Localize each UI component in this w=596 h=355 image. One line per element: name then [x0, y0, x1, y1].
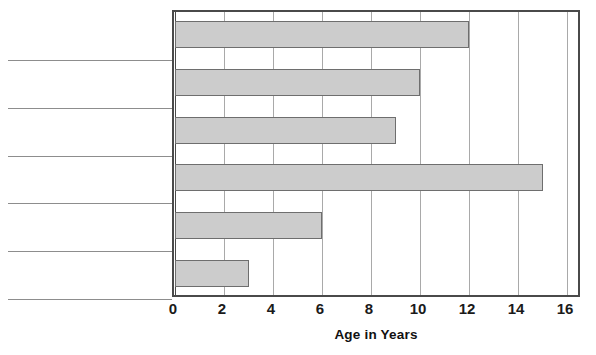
answer-line-rule — [8, 60, 172, 61]
answer-line-slot[interactable] — [8, 127, 172, 157]
x-tick-label: 2 — [218, 300, 226, 318]
x-tick-label: 16 — [557, 300, 574, 318]
answer-line-slot[interactable] — [8, 222, 172, 252]
x-tick-label: 4 — [267, 300, 275, 318]
bar — [175, 21, 469, 48]
answer-line-rule — [8, 299, 172, 300]
bar — [175, 164, 543, 191]
x-tick-label: 0 — [169, 300, 177, 318]
answer-lines-region — [0, 0, 172, 310]
bar — [175, 117, 396, 144]
answer-line-rule — [8, 108, 172, 109]
answer-line-slot[interactable] — [8, 174, 172, 204]
answer-line-slot[interactable] — [8, 270, 172, 300]
answer-line-rule — [8, 251, 172, 252]
x-axis-tick-labels: 0246810121416 — [172, 300, 580, 322]
bar — [175, 260, 249, 287]
x-tick-label: 10 — [410, 300, 427, 318]
plot-area — [172, 10, 580, 297]
x-tick-label: 12 — [459, 300, 476, 318]
x-tick-label: 8 — [365, 300, 373, 318]
bar — [175, 212, 322, 239]
bar-series — [174, 12, 578, 295]
x-axis-title: Age in Years — [172, 327, 580, 342]
x-tick-label: 6 — [316, 300, 324, 318]
answer-line-rule — [8, 156, 172, 157]
answer-line-slot[interactable] — [8, 31, 172, 61]
answer-line-slot[interactable] — [8, 79, 172, 109]
answer-line-rule — [8, 203, 172, 204]
bar — [175, 69, 420, 96]
chart-page: 0246810121416 Age in Years — [0, 0, 596, 355]
x-tick-label: 14 — [508, 300, 525, 318]
